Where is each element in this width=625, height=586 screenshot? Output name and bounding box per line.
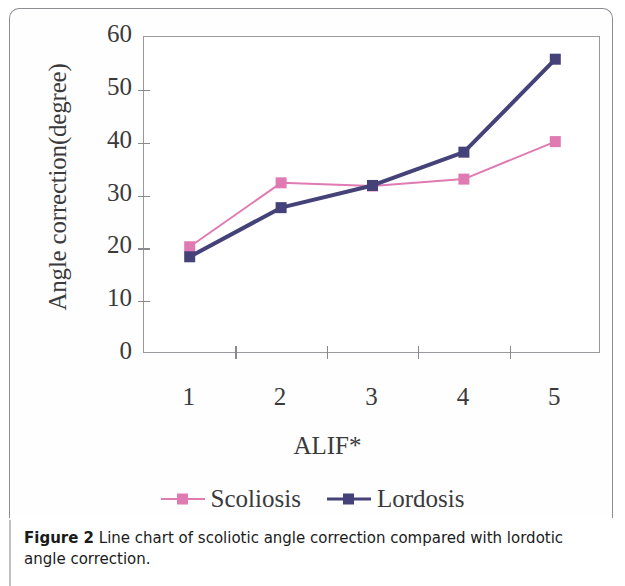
y-tick-mark: [138, 90, 150, 91]
data-point-marker: [550, 54, 561, 65]
line-chart-figure: Angle correction(degree) 6050403020100 1…: [0, 0, 625, 520]
x-tick-label: 2: [260, 383, 300, 411]
y-tick-label: 40: [72, 126, 132, 154]
y-tick-mark: [138, 301, 150, 302]
data-point-marker: [184, 241, 195, 252]
y-tick-label: 10: [72, 284, 132, 312]
data-point-marker: [458, 147, 469, 158]
x-tick-mark: [235, 346, 236, 359]
y-tick-mark: [138, 248, 150, 249]
series-line: [190, 142, 556, 247]
y-tick-mark: [138, 143, 150, 144]
legend-label: Scoliosis: [211, 486, 301, 511]
data-point-marker: [276, 177, 287, 188]
data-point-marker: [367, 180, 378, 191]
figure-caption-text: Line chart of scoliotic angle correction…: [24, 529, 563, 568]
y-axis-title: Angle correction(degree): [44, 37, 72, 337]
chart-legend: ScoliosisLordosis: [0, 486, 625, 511]
data-point-marker: [276, 202, 287, 213]
series-line: [190, 59, 556, 257]
data-point-marker: [458, 174, 469, 185]
x-tick-mark: [327, 346, 328, 359]
legend-swatch-icon: [161, 493, 205, 505]
y-tick-label: 50: [72, 73, 132, 101]
x-tick-label: 5: [534, 383, 574, 411]
y-tick-label: 20: [72, 231, 132, 259]
x-tick-label: 3: [352, 383, 392, 411]
y-tick-label: 0: [72, 337, 132, 365]
caption-sidebar-rule: [9, 520, 11, 586]
y-tick-label: 30: [72, 179, 132, 207]
plot-area: [143, 36, 600, 353]
x-tick-label: 1: [169, 383, 209, 411]
data-point-marker: [184, 251, 195, 262]
figure-caption-label: Figure 2: [24, 529, 94, 547]
series-plot: [144, 37, 601, 354]
legend-swatch-icon: [327, 493, 371, 505]
y-tick-label: 60: [72, 20, 132, 48]
x-tick-mark: [418, 346, 419, 359]
x-axis-title-text: ALIF*: [293, 432, 361, 459]
legend-entry[interactable]: Scoliosis: [161, 486, 301, 511]
y-tick-mark: [138, 196, 150, 197]
figure-caption: Figure 2 Line chart of scoliotic angle c…: [24, 528, 604, 571]
x-tick-label: 4: [443, 383, 483, 411]
data-point-marker: [550, 136, 561, 147]
legend-entry[interactable]: Lordosis: [327, 486, 465, 511]
x-axis-title: ALIF*: [0, 432, 625, 460]
legend-label: Lordosis: [377, 486, 465, 511]
x-tick-mark: [510, 346, 511, 359]
